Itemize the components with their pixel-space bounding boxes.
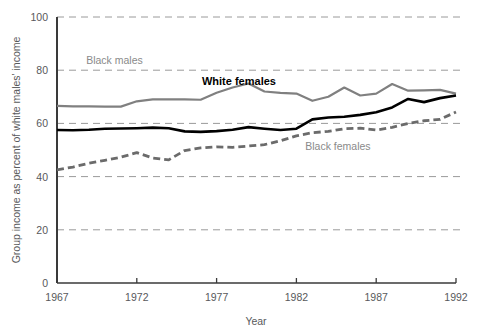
y-tick-label-60: 60 bbox=[36, 117, 48, 129]
white-females-label: White females bbox=[202, 75, 276, 87]
y-tick-label-20: 20 bbox=[36, 224, 48, 236]
y-tick-label-80: 80 bbox=[36, 64, 48, 76]
black-females-label: Black females bbox=[305, 140, 370, 152]
x-tick-label-1967: 1967 bbox=[45, 291, 69, 303]
x-tick-label-1972: 1972 bbox=[125, 291, 149, 303]
x-axis-title: Year bbox=[245, 315, 267, 327]
x-tick-label-1982: 1982 bbox=[285, 291, 309, 303]
y-tick-label-0: 0 bbox=[42, 277, 48, 289]
x-tick-label-1977: 1977 bbox=[205, 291, 229, 303]
x-tick-labels-group: 196719721977198219871992 bbox=[45, 291, 468, 303]
chart-container: 100806040200 196719721977198219871992 Bl… bbox=[0, 0, 483, 333]
y-axis-title: Group income as percent of white males' … bbox=[10, 36, 22, 263]
black-males-label: Black males bbox=[86, 54, 143, 66]
gridlines-group bbox=[57, 17, 460, 230]
x-tick-label-1987: 1987 bbox=[365, 291, 389, 303]
line-chart: 100806040200 196719721977198219871992 Bl… bbox=[0, 0, 483, 333]
x-tick-label-1992: 1992 bbox=[444, 291, 468, 303]
y-tick-label-40: 40 bbox=[36, 171, 48, 183]
series-line-black-females bbox=[57, 112, 456, 170]
y-tick-label-100: 100 bbox=[30, 11, 48, 23]
series-paths-group bbox=[57, 84, 456, 170]
series-annotations-group: Black malesWhite femalesBlack females bbox=[86, 54, 370, 152]
y-tick-labels-group: 100806040200 bbox=[30, 11, 48, 289]
